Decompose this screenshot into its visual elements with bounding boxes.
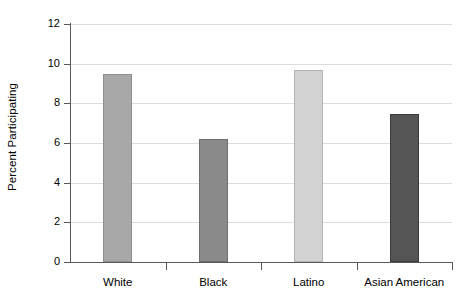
y-axis-line [70,23,71,263]
bar [390,114,419,262]
x-axis-tick [452,263,453,270]
x-axis-category-label: White [70,275,166,289]
y-axis-tick-label: 0 [22,256,60,267]
gridline [70,24,452,25]
x-axis-category-label: Latino [261,275,357,289]
x-axis-tick [261,263,262,270]
y-axis-tick-label: 12 [22,18,60,29]
y-axis-tick-label: 10 [22,58,60,69]
x-axis-category-label: Black [166,275,262,289]
y-axis-tick-label: 4 [22,177,60,188]
bar [294,70,323,262]
x-axis-tick [357,263,358,270]
y-axis-tick-label: 8 [22,97,60,108]
y-axis-tick-label: 2 [22,216,60,227]
bar [103,74,132,262]
bar-chart: Percent Participating 024681012 WhiteBla… [0,0,462,300]
x-axis-category-label: Asian American [357,275,453,289]
y-axis-tick-label: 6 [22,137,60,148]
y-axis-title: Percent Participating [6,12,18,262]
plot-area [70,24,452,262]
gridline [70,64,452,65]
x-axis-tick [166,263,167,270]
bar [199,139,228,262]
